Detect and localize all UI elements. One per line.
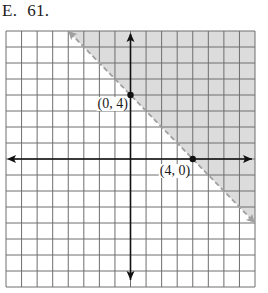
point-label: (0, 4) xyxy=(98,96,129,112)
point-label: (4, 0) xyxy=(160,163,191,179)
coordinate-graph: (0, 4)(4, 0) xyxy=(0,0,268,293)
point-marker xyxy=(190,156,196,162)
point-marker xyxy=(127,92,133,98)
